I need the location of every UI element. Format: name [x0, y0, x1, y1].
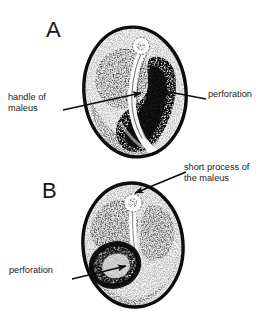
panel-letter-a: A	[46, 19, 61, 41]
panel-b-short-process-arrow	[135, 172, 186, 193]
panel-b-short-process	[124, 194, 142, 212]
label-handle-of-maleus: handle of maleus	[8, 92, 46, 114]
label-perforation-panel-b: perforation	[9, 265, 53, 276]
panel-a-drawing	[63, 22, 206, 162]
label-perforation-panel-a: perforation	[208, 89, 252, 100]
panel-a-short-process	[133, 38, 150, 55]
panel-b-drawing	[72, 172, 188, 311]
figure-container: A B handle of maleus perforation short p…	[0, 0, 273, 315]
panel-letter-b: B	[42, 180, 57, 202]
label-short-process-of-the-maleus: short process of the maleus	[184, 162, 249, 184]
